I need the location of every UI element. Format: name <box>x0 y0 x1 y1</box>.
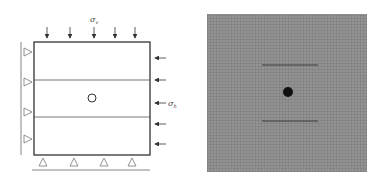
horizontal-load-arrows <box>155 58 166 144</box>
opening-filled-icon <box>283 87 293 97</box>
left-roller-supports <box>24 48 32 143</box>
bottom-roller-supports <box>39 158 136 166</box>
vertical-load-arrows <box>47 27 135 38</box>
model-domain <box>34 42 150 155</box>
sigma-v-label: σv <box>90 15 98 25</box>
figure: σv σh <box>0 0 382 184</box>
opening-icon <box>88 94 96 102</box>
mesh-panel <box>207 14 367 172</box>
sigma-h-label: σh <box>168 99 177 109</box>
boundary-diagram: σv σh <box>21 15 177 170</box>
